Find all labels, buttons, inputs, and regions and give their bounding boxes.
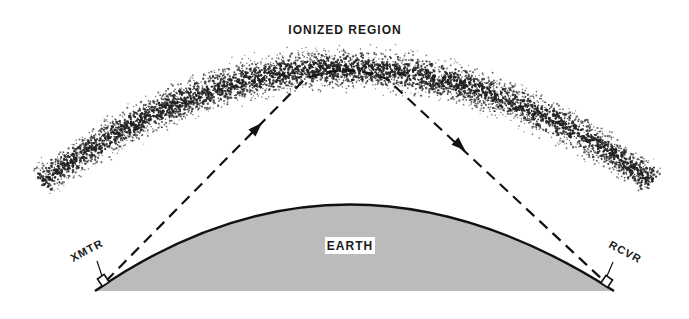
ionized-region-band [33, 44, 661, 194]
receiver: RCVR [601, 238, 644, 287]
transmitter-leader-line [97, 261, 102, 276]
skywave-diagram: IONIZED REGION EARTH XMTR RCVR [0, 0, 689, 319]
receiver-label: RCVR [607, 238, 644, 265]
receiver-leader-line [607, 262, 613, 276]
ionized-region-label: IONIZED REGION [288, 23, 401, 37]
transmitter-label: XMTR [68, 237, 105, 264]
earth-label: EARTH [327, 239, 373, 253]
transmitter: XMTR [68, 237, 109, 287]
